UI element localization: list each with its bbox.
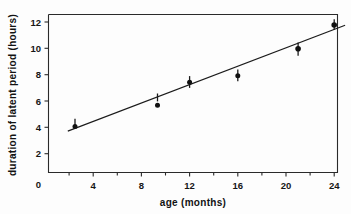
y-tick-label-origin: 0 xyxy=(36,179,41,190)
x-tick-label: 20 xyxy=(281,180,292,191)
y-tick-label: 4 xyxy=(36,122,42,133)
data-point-marker xyxy=(187,80,192,85)
y-tick-label: 10 xyxy=(30,43,41,54)
data-point-marker xyxy=(235,73,240,78)
x-axis-title: age (months) xyxy=(160,197,226,208)
x-tick-labels: 4 8 12 16 20 24 xyxy=(91,180,341,191)
x-axis-ticks xyxy=(69,173,334,177)
data-point-group xyxy=(295,43,301,56)
chart-figure: 12 10 8 6 4 2 0 4 8 12 16 20 24 age (mon… xyxy=(0,0,351,214)
regression-line xyxy=(68,25,345,131)
x-tick-label: 4 xyxy=(91,180,97,191)
y-tick-label: 8 xyxy=(36,69,41,80)
data-point-marker xyxy=(155,103,160,108)
y-tick-label: 2 xyxy=(36,148,41,159)
y-tick-label: 6 xyxy=(36,96,41,107)
scatter-plot: 12 10 8 6 4 2 0 4 8 12 16 20 24 age (mon… xyxy=(0,0,351,214)
data-point-group xyxy=(235,70,240,82)
data-point-marker xyxy=(73,124,78,129)
x-tick-label: 12 xyxy=(184,180,195,191)
x-tick-label: 16 xyxy=(233,180,244,191)
data-point-marker xyxy=(331,22,337,28)
plot-frame xyxy=(49,15,338,173)
data-point-marker xyxy=(295,46,301,52)
y-axis-ticks xyxy=(45,22,49,154)
y-tick-labels: 12 10 8 6 4 2 0 xyxy=(30,17,41,190)
data-point-group xyxy=(73,119,78,129)
y-tick-label: 12 xyxy=(30,17,41,28)
data-series xyxy=(73,19,338,129)
x-tick-label: 24 xyxy=(329,180,340,191)
x-tick-label: 8 xyxy=(139,180,144,191)
y-axis-title: duration of latent period (hours) xyxy=(7,14,18,176)
data-point-group xyxy=(187,76,192,88)
